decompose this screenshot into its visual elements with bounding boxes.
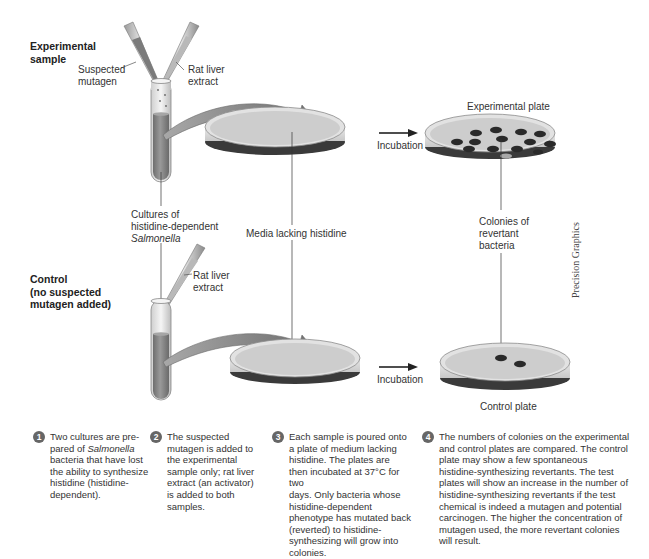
step-number-badge: 1 bbox=[33, 431, 45, 443]
mutagen-pipette-icon bbox=[124, 22, 158, 82]
step-2: 2 The suspected mutagen is added to the … bbox=[150, 431, 260, 512]
colonies-label: Colonies of revertant bacteria bbox=[479, 216, 529, 252]
step-number-badge: 3 bbox=[272, 431, 284, 443]
experimental-test-tube-icon bbox=[151, 79, 171, 183]
rat-liver-extract-label: Rat liver extract bbox=[188, 64, 225, 88]
control-plate-icon bbox=[440, 343, 570, 390]
step-number-badge: 4 bbox=[422, 431, 434, 443]
control-plate-label: Control plate bbox=[480, 401, 537, 413]
step-3: 3 Each sample is poured onto a plate of … bbox=[272, 431, 412, 559]
experimental-sample-heading: Experimental sample bbox=[30, 40, 96, 65]
incubation-arrow-icon bbox=[379, 129, 418, 137]
control-incubation-arrow-icon bbox=[379, 363, 418, 371]
control-test-tube-icon bbox=[151, 299, 171, 401]
suspected-mutagen-label: Suspected mutagen bbox=[78, 64, 125, 88]
incubation-label-bottom: Incubation bbox=[377, 374, 423, 386]
media-lacking-histidine-label: Media lacking histidine bbox=[246, 228, 347, 240]
step-1: 1 Two cultures are pre- pared of Salmone… bbox=[33, 431, 151, 501]
incubation-label-top: Incubation bbox=[377, 140, 423, 152]
control-heading: Control (no suspected mutagen added) bbox=[30, 273, 111, 311]
control-media-plate-icon bbox=[230, 339, 360, 384]
credit-text: Precision Graphics bbox=[570, 222, 581, 298]
media-plate-icon bbox=[205, 107, 345, 155]
control-rat-liver-extract-label: Rat liver extract bbox=[193, 270, 230, 294]
experimental-plate-icon bbox=[425, 114, 556, 159]
step-number-badge: 2 bbox=[150, 431, 162, 443]
cultures-label: Cultures of histidine-dependent Salmonel… bbox=[131, 209, 218, 245]
experimental-plate-label: Experimental plate bbox=[467, 101, 550, 113]
step-4: 4 The numbers of colonies on the experim… bbox=[422, 431, 647, 547]
